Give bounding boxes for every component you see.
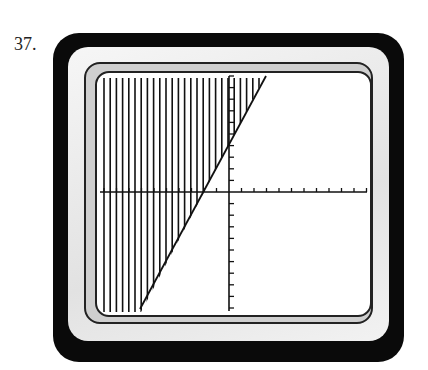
graph-plot: [0, 0, 428, 370]
axes: [100, 76, 367, 311]
shaded-region: [104, 78, 265, 312]
